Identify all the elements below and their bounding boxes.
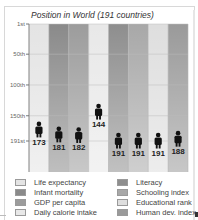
- legend-item: Human dev. index: [117, 207, 196, 217]
- legend-swatch: [15, 189, 26, 196]
- data-label: 144: [92, 120, 106, 129]
- y-tick-label: 191st: [10, 138, 25, 144]
- legend-item: Life expectancy: [15, 177, 86, 187]
- legend-label: Educational rank: [136, 198, 192, 207]
- legend-label: Human dev. index: [136, 208, 196, 217]
- legend-swatch: [117, 189, 128, 196]
- data-label: 188: [171, 147, 185, 156]
- legend-swatch: [15, 209, 26, 216]
- legend-swatch: [15, 179, 26, 186]
- data-label: 173: [32, 138, 46, 147]
- legend-label: Schooling index: [136, 188, 189, 197]
- data-label: 191: [132, 149, 146, 158]
- legend-item: Schooling index: [117, 187, 189, 197]
- y-tick-label: 150th: [10, 113, 25, 119]
- legend-label: Literacy: [136, 178, 162, 187]
- legend-swatch: [117, 179, 128, 186]
- legend-item: Daily calorie intake: [15, 207, 97, 217]
- data-label: 191: [112, 149, 126, 158]
- legend-label: Life expectancy: [34, 178, 86, 187]
- y-tick-label: 50th: [13, 51, 25, 57]
- chart-plot: 1st50th100th150th191st 17318118214419119…: [0, 0, 198, 176]
- legend-swatch: [117, 209, 128, 216]
- legend-item: Literacy: [117, 177, 162, 187]
- data-label: 191: [152, 149, 166, 158]
- y-tick-label: 100th: [10, 82, 25, 88]
- legend-item: GDP per capita: [15, 197, 85, 207]
- data-label: 182: [72, 143, 86, 152]
- legend-label: Daily calorie intake: [34, 208, 97, 217]
- scroll-marker: [195, 212, 198, 217]
- legend-item: Infant mortality: [15, 187, 83, 197]
- divider: [0, 215, 6, 216]
- legend-swatch: [117, 199, 128, 206]
- data-label: 181: [52, 143, 66, 152]
- column-shade: [89, 24, 109, 172]
- column-shade: [29, 24, 49, 172]
- y-tick-label: 1st: [17, 21, 25, 27]
- legend-item: Educational rank: [117, 197, 192, 207]
- legend-label: Infant mortality: [34, 188, 83, 197]
- legend-swatch: [15, 199, 26, 206]
- legend-label: GDP per capita: [34, 198, 85, 207]
